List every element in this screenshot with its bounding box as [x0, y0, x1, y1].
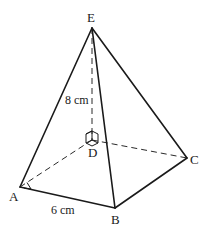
label-D: D — [88, 145, 97, 160]
pyramid-diagram: E A B C D 8 cm 6 cm — [0, 0, 209, 233]
edge-BC — [115, 158, 187, 208]
right-angle-marker-D — [86, 131, 98, 146]
label-E: E — [87, 10, 95, 25]
label-B: B — [111, 212, 120, 227]
label-base-edge: 6 cm — [51, 203, 75, 217]
label-height: 8 cm — [65, 93, 89, 107]
label-C: C — [190, 152, 199, 167]
label-A: A — [9, 189, 19, 204]
